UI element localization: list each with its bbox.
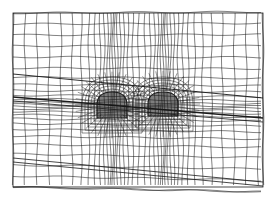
mesh-grid bbox=[12, 11, 264, 192]
fe-mesh-diagram bbox=[0, 0, 277, 205]
